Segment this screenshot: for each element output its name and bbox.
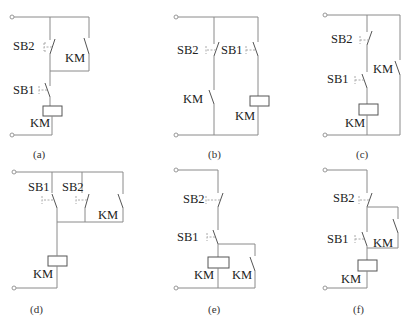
km-contact-icon	[118, 194, 123, 208]
label-km-coil: KM	[341, 273, 361, 286]
label-km-contact: KM	[98, 209, 118, 222]
caption-c: (c)	[356, 149, 368, 160]
label-km-coil: KM	[235, 110, 255, 123]
label-km-coil: KM	[30, 117, 50, 130]
label-km-coil: KM	[194, 269, 214, 282]
km-contact-icon	[209, 90, 214, 104]
km-coil-icon	[208, 257, 229, 268]
sb2-switch-icon	[367, 31, 372, 45]
caption-f: (f)	[353, 304, 364, 315]
caption-a: (a)	[33, 149, 45, 160]
label-km-coil: KM	[33, 268, 53, 281]
label-km-contact: KM	[65, 52, 85, 65]
label-km-contact: KM	[373, 237, 393, 250]
km-coil-icon	[359, 104, 378, 115]
km-coil-icon	[43, 106, 62, 116]
km-contact-icon	[395, 61, 400, 75]
label-sb2: SB2	[331, 33, 353, 46]
label-sb1: SB1	[221, 44, 243, 57]
sb1-switch-icon	[253, 42, 258, 56]
km-contact-icon	[393, 219, 398, 233]
label-km-contact: KM	[183, 93, 203, 106]
label-km-contact: KM	[232, 269, 252, 282]
label-sb2: SB2	[183, 193, 205, 206]
sb2-switch-icon	[85, 194, 89, 208]
label-sb1: SB1	[327, 73, 349, 86]
km-coil-icon	[358, 260, 377, 271]
label-sb2: SB2	[177, 44, 199, 57]
caption-d: (d)	[30, 304, 43, 315]
km-coil-icon	[250, 96, 269, 106]
label-sb1: SB1	[177, 231, 199, 244]
caption-e: (e)	[208, 304, 220, 315]
label-sb2: SB2	[62, 181, 84, 194]
terminal-bottom	[10, 133, 14, 137]
label-sb2: SB2	[13, 40, 35, 53]
sb1-switch-icon	[52, 194, 57, 208]
sb1-switch-icon	[362, 74, 367, 88]
sb2-switch-icon	[214, 42, 219, 56]
label-sb1: SB1	[28, 181, 50, 194]
label-km-contact: KM	[373, 63, 393, 76]
caption-b: (b)	[208, 149, 221, 160]
label-km-coil: KM	[345, 117, 365, 130]
km-coil-icon	[48, 256, 67, 266]
terminal-top	[10, 15, 14, 19]
label-sb1: SB1	[327, 233, 349, 246]
label-sb2: SB2	[333, 192, 355, 205]
label-sb1: SB1	[13, 84, 35, 97]
